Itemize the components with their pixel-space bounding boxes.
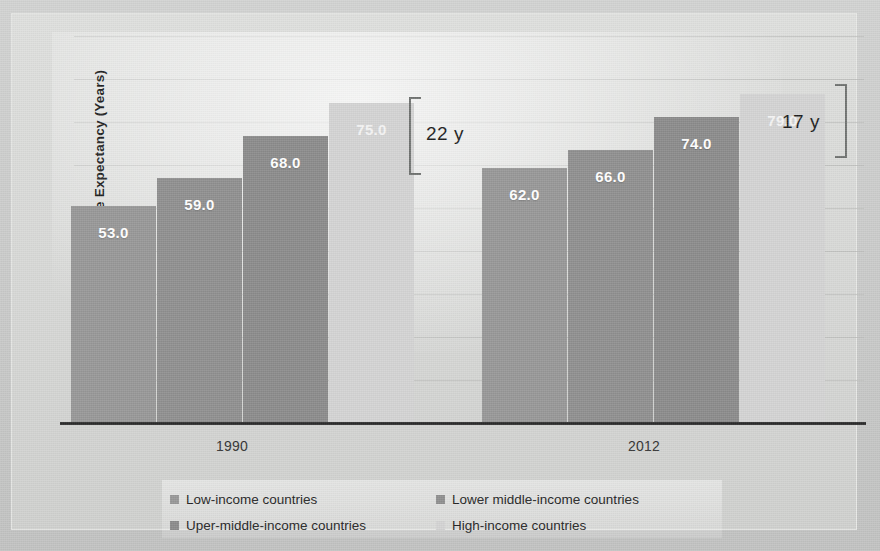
gap-bracket-1990 bbox=[409, 97, 421, 175]
legend-item-low-income[interactable]: Low-income countries bbox=[170, 486, 436, 512]
bar-value-label: 75.0 bbox=[329, 121, 414, 138]
gap-annotation-1990: 22 y bbox=[426, 123, 464, 145]
gap-annotation-2012: 17 y bbox=[782, 111, 820, 133]
bar-value-label: 66.0 bbox=[568, 168, 653, 185]
legend-swatch-icon bbox=[170, 521, 179, 530]
bar-value-label: 53.0 bbox=[71, 224, 156, 241]
legend-item-lower-middle-income[interactable]: Lower middle-income countries bbox=[436, 486, 714, 512]
bar-value-label: 62.0 bbox=[482, 186, 567, 203]
x-axis-line bbox=[60, 422, 866, 425]
bars-layer: 53.0 59.0 68.0 75.0 62.0 66.0 74.0 bbox=[12, 14, 880, 425]
gap-bracket-2012 bbox=[835, 84, 847, 158]
bar-value-label: 59.0 bbox=[157, 196, 242, 213]
legend: Low-income countries Lower middle-income… bbox=[162, 480, 722, 538]
bar-value-label: 68.0 bbox=[243, 154, 328, 171]
bar-2012-upper-middle-income[interactable]: 74.0 bbox=[654, 117, 739, 425]
bar-value-label: 74.0 bbox=[654, 135, 739, 152]
legend-item-high-income[interactable]: High-income countries bbox=[436, 512, 714, 538]
legend-item-upper-middle-income[interactable]: Uper-middle-income countries bbox=[170, 512, 436, 538]
bar-1990-upper-middle-income[interactable]: 68.0 bbox=[243, 136, 328, 425]
bar-2012-low-income[interactable]: 62.0 bbox=[482, 168, 567, 425]
legend-row-top: Low-income countries Lower middle-income… bbox=[170, 486, 714, 512]
legend-swatch-icon bbox=[170, 495, 179, 504]
x-tick-label-1990: 1990 bbox=[172, 438, 292, 454]
legend-item-label: Low-income countries bbox=[186, 492, 317, 507]
legend-item-label: Uper-middle-income countries bbox=[186, 518, 366, 533]
figure-page: Lfe Expectancy (Years) 53.0 59.0 68.0 75… bbox=[0, 0, 880, 551]
legend-swatch-icon bbox=[436, 521, 445, 530]
legend-item-label: High-income countries bbox=[452, 518, 586, 533]
bar-1990-high-income[interactable]: 75.0 bbox=[329, 103, 414, 425]
figure-frame: Lfe Expectancy (Years) 53.0 59.0 68.0 75… bbox=[11, 13, 857, 530]
bar-1990-lower-middle-income[interactable]: 59.0 bbox=[157, 178, 242, 425]
bar-2012-high-income[interactable]: 79.0 bbox=[740, 94, 825, 425]
x-tick-label-2012: 2012 bbox=[584, 438, 704, 454]
bar-2012-lower-middle-income[interactable]: 66.0 bbox=[568, 150, 653, 425]
legend-item-label: Lower middle-income countries bbox=[452, 492, 639, 507]
legend-swatch-icon bbox=[436, 495, 445, 504]
bar-1990-low-income[interactable]: 53.0 bbox=[71, 206, 156, 425]
legend-row-bottom: Uper-middle-income countries High-income… bbox=[170, 512, 714, 538]
